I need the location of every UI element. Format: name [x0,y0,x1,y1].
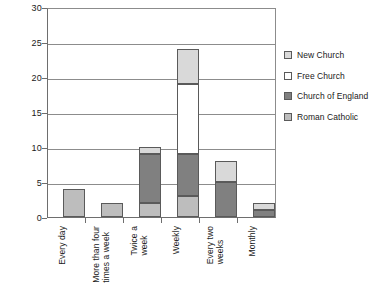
x-tick-label-monthly: Monthly [248,226,258,256]
legend-label-roman-catholic: Roman Catholic [297,112,358,122]
legend-item-new-church[interactable]: New Church [284,45,380,66]
y-tick-mark-15 [42,113,47,114]
bar-segment-new-church[interactable] [253,203,275,210]
x-tick-label-twice-a-week: Twice a week [130,226,149,256]
x-tick-label-more-than-four-times-a-week: More than four times a week [92,226,111,283]
x-tick-mark-2 [123,218,124,223]
legend: New Church Free Church Church of England… [284,45,380,127]
bar-segment-church-of-england[interactable] [253,210,275,217]
bar-segment-church-of-england[interactable] [215,182,237,217]
y-tick-mark-20 [42,78,47,79]
bar-segment-roman-catholic[interactable] [63,189,85,217]
legend-swatch-new-church [284,51,292,59]
bar-group-weekly[interactable] [177,49,199,217]
legend-swatch-roman-catholic [284,113,292,121]
bar-segment-new-church[interactable] [139,147,161,154]
y-tick-mark-0 [42,218,47,219]
legend-item-free-church[interactable]: Free Church [284,66,380,87]
legend-item-roman-catholic[interactable]: Roman Catholic [284,107,380,128]
x-tick-mark-5 [237,218,238,223]
bar-segment-roman-catholic[interactable] [101,203,123,217]
legend-label-church-of-england: Church of England [297,91,368,101]
y-tick-mark-25 [42,43,47,44]
plot-area [47,8,276,218]
x-tick-label-weekly: Weekly [172,226,182,254]
bar-segment-church-of-england[interactable] [139,154,161,203]
x-tick-mark-3 [161,218,162,223]
bar-segment-roman-catholic[interactable] [177,196,199,217]
legend-label-free-church: Free Church [297,71,345,81]
bars-layer [48,9,275,217]
bar-group-twice-a-week[interactable] [139,147,161,217]
bar-group-every-day[interactable] [63,189,85,217]
y-tick-label-25: 25 [16,39,42,48]
bar-segment-free-church[interactable] [177,84,199,154]
bar-segment-roman-catholic[interactable] [139,203,161,217]
y-tick-label-5: 5 [16,179,42,188]
y-tick-mark-30 [42,8,47,9]
legend-label-new-church: New Church [297,50,344,60]
y-tick-mark-5 [42,183,47,184]
legend-swatch-free-church [284,72,292,80]
stacked-bar-chart: 30 25 20 15 10 5 0 Every day More than f… [0,0,380,284]
x-tick-label-every-two-weeks: Every two weeks [206,226,225,264]
bar-group-every-two-weeks[interactable] [215,161,237,217]
legend-item-church-of-england[interactable]: Church of England [284,86,380,107]
legend-swatch-church-of-england [284,92,292,100]
bar-group-more-than-four-times-a-week[interactable] [101,203,123,217]
y-tick-label-15: 15 [16,109,42,118]
bar-segment-new-church[interactable] [215,161,237,182]
y-tick-label-30: 30 [16,4,42,13]
bar-group-monthly[interactable] [253,203,275,217]
y-tick-label-20: 20 [16,74,42,83]
x-tick-label-every-day: Every day [58,226,68,265]
x-tick-mark-1 [85,218,86,223]
x-tick-mark-4 [199,218,200,223]
y-tick-label-10: 10 [16,144,42,153]
y-tick-mark-10 [42,148,47,149]
bar-segment-new-church[interactable] [177,49,199,84]
y-tick-label-0: 0 [16,214,42,223]
bar-segment-church-of-england[interactable] [177,154,199,196]
